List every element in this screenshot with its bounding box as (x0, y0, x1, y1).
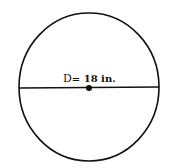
center-point (86, 85, 92, 91)
circle-diagram: D= 18 in. (0, 0, 170, 168)
diameter-label: D= 18 in. (63, 72, 116, 85)
